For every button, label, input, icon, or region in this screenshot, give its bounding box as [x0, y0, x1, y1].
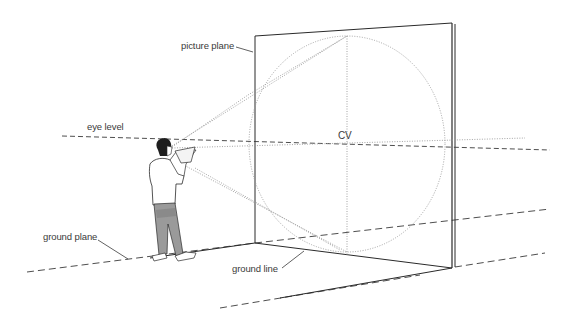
perspective-diagram [0, 0, 574, 326]
ground-line [150, 243, 452, 298]
eye-level-line [62, 136, 550, 150]
ground-plane-edges [27, 209, 550, 308]
cone-of-vision-circle [249, 36, 445, 255]
sight-lines [172, 36, 525, 252]
observer [149, 138, 196, 261]
eye-level-label: eye level [87, 121, 124, 132]
picture-plane-label: picture plane [181, 40, 234, 51]
cv-label: CV [338, 130, 352, 141]
ground-plane-label: ground plane [43, 231, 97, 242]
ground-line-label: ground line [232, 263, 278, 274]
label-leaders [98, 47, 304, 268]
